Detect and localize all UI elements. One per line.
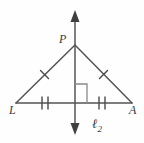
right-angle-marker [75, 84, 87, 103]
vertex-label-l: L [9, 104, 16, 116]
arrowhead-up-icon [71, 10, 80, 22]
line-label-l2-subscript: 2 [97, 124, 102, 134]
arrowhead-down-icon [71, 123, 80, 135]
segment-LP [16, 45, 75, 103]
geometry-figure: P L A ℓ2 [0, 0, 144, 143]
vertex-label-a: A [129, 104, 136, 116]
vertex-label-p: P [59, 33, 66, 45]
triangle-LPA [16, 45, 132, 103]
line-label-l2: ℓ2 [92, 117, 102, 134]
geometry-canvas [0, 0, 144, 143]
